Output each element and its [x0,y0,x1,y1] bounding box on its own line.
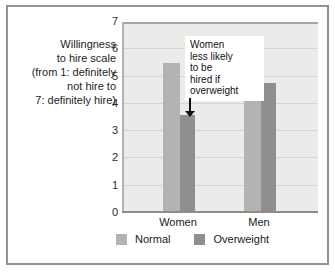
y-tick-label: 5 [8,70,118,83]
bar-men-overweight [261,83,276,213]
y-tick-label: 7 [8,15,118,28]
bar-women-normal [163,63,180,213]
legend-swatch-icon [116,234,127,245]
gridline [122,103,318,104]
gridline [122,157,318,158]
legend-item-overweight: Overweight [194,233,269,245]
y-axis-line [122,22,124,213]
gridline [122,130,318,131]
annotation-arrowhead-icon [185,111,195,117]
gridline [122,185,318,186]
y-tick-label: 0 [8,206,118,219]
annotation-line: Women [190,39,260,51]
legend-label: Normal [135,233,170,245]
legend: NormalOverweight [116,233,269,245]
y-tick-label: 2 [8,151,118,164]
annotation-line: to be [190,62,260,74]
annotation-arrow [189,98,191,112]
plot-top-border [122,22,318,24]
x-category-label-men: Men [248,216,269,228]
legend-label: Overweight [213,233,269,245]
bar-chart-figure: Willingness to hire scale (from 1: defin… [6,5,329,265]
y-tick-label: 4 [8,97,118,110]
y-tick-label: 1 [8,179,118,192]
annotation-line: overweight [190,85,260,97]
annotation-line: hired if [190,74,260,86]
legend-swatch-icon [194,234,205,245]
bar-women-overweight [180,115,195,213]
x-category-label-women: Women [159,216,197,228]
annotation-line: less likely [190,51,260,63]
y-tick-label: 3 [8,124,118,137]
annotation-callout: Women less likely to be hired if overwei… [185,36,264,101]
y-tick-label: 6 [8,42,118,55]
x-axis-line [122,211,318,213]
legend-item-normal: Normal [116,233,170,245]
